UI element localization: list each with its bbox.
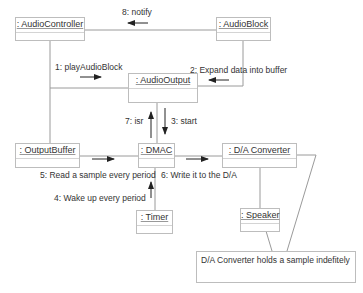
speaker-label: : Speaker (241, 210, 280, 220)
note-text: D/A Converter holds a sample indefitely (201, 255, 350, 265)
message-5-label: 5: Read a sample every period (40, 170, 156, 180)
message-6-label: 6: Write it to the D/A (161, 170, 237, 180)
da-converter-object: : D/A Converter (222, 143, 297, 168)
output-buffer-object: : OutputBuffer (15, 143, 80, 168)
message-3-label: 3: start (171, 116, 197, 126)
timer-label: : Timer (141, 212, 169, 222)
speaker-object: : Speaker (240, 208, 280, 232)
dmac-object: : DMAC (138, 143, 175, 168)
audio-controller-label: : AudioController (17, 19, 84, 29)
da-converter-label: : D/A Converter (229, 145, 291, 155)
audio-block-label: : AudioBlock (219, 19, 269, 29)
message-2-label: 2: Expand data into buffer (190, 65, 287, 75)
audio-controller-object: : AudioController (15, 17, 85, 41)
output-buffer-label: : OutputBuffer (20, 145, 76, 155)
message-1-label: 1: playAudioBlock (55, 62, 123, 72)
audio-block-object: : AudioBlock (216, 17, 271, 41)
note-box: D/A Converter holds a sample indefitely (196, 251, 356, 283)
message-7-label: 7: isr (125, 116, 143, 126)
dmac-label: : DMAC (141, 145, 173, 155)
message-8-label: 8: notify (122, 7, 152, 17)
timer-object: : Timer (136, 210, 173, 234)
audio-output-label: : AudioOutput (136, 75, 191, 85)
message-4-label: 4: Wake up every period (54, 193, 146, 203)
audio-output-object: : AudioOutput (128, 73, 198, 103)
